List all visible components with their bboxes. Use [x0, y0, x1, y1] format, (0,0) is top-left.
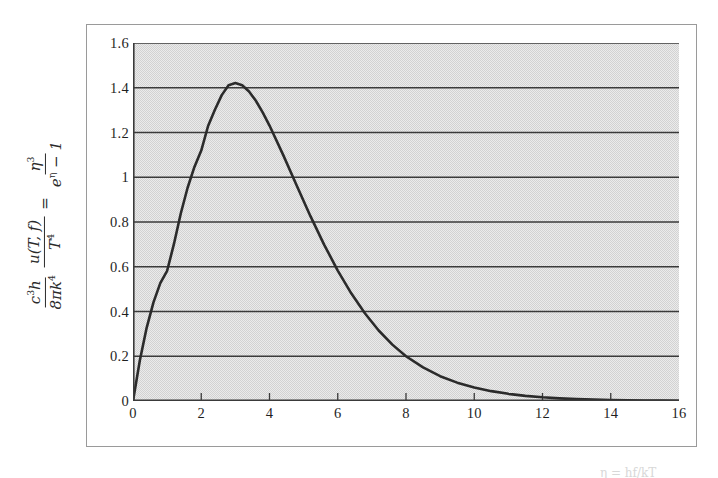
formula-rhs-numerator: η3 — [26, 153, 46, 174]
chart-frame: 00.20.40.60.811.21.41.6 0246810121416 — [86, 24, 697, 447]
formula-lhs-denominator: 8πk4 — [46, 272, 65, 312]
formula-rhs-den-exponent: η — [46, 172, 57, 178]
x-tick-label: 4 — [266, 405, 274, 422]
x-tick-label: 2 — [197, 405, 205, 422]
x-tick-label: 10 — [467, 405, 482, 422]
blackbody-spectrum-figure: c3h 8πk4 u(T, f) T4 = η3 eη − 1 00.20.40… — [0, 0, 718, 478]
bottom-caption: η = hf/kT — [600, 466, 710, 478]
formula-equals-sign: = — [36, 195, 54, 212]
formula-lhs-den-exponent: 4 — [46, 275, 57, 281]
x-tick-label: 12 — [535, 405, 550, 422]
x-tick-label: 6 — [334, 405, 342, 422]
formula-rhs-num-exponent: 3 — [25, 156, 36, 162]
formula-mid-denominator: T4 — [45, 231, 64, 253]
y-tick-label: 0 — [89, 393, 129, 410]
planck-distribution-curve — [133, 83, 679, 401]
formula-mid-numerator: u(T, f) — [27, 217, 45, 267]
plot-area — [133, 43, 679, 401]
y-tick-label: 0.4 — [89, 303, 129, 320]
x-tick-label: 8 — [402, 405, 410, 422]
y-tick-label: 0.2 — [89, 348, 129, 365]
formula-mid-fraction: u(T, f) T4 — [27, 217, 64, 267]
x-axis-tick-labels: 0246810121416 — [133, 405, 679, 429]
x-tick-label: 16 — [671, 405, 686, 422]
formula-rhs-fraction: η3 eη − 1 — [26, 138, 65, 190]
y-axis-formula-label: c3h 8πk4 u(T, f) T4 = η3 eη − 1 — [14, 30, 76, 420]
x-tick-label: 14 — [603, 405, 618, 422]
y-tick-label: 1 — [89, 169, 129, 186]
y-tick-label: 0.8 — [89, 214, 129, 231]
y-tick-label: 0.6 — [89, 258, 129, 275]
formula-lhs-fraction: c3h 8πk4 — [26, 272, 65, 312]
formula-lhs-num-exponent: 3 — [25, 290, 36, 296]
y-tick-label: 1.6 — [89, 35, 129, 52]
y-axis-formula: c3h 8πk4 u(T, f) T4 = η3 eη − 1 — [26, 138, 65, 312]
formula-rhs-denominator: eη − 1 — [46, 138, 65, 190]
plot-canvas — [133, 43, 679, 401]
gridlines — [133, 43, 679, 356]
x-tick-label: 0 — [129, 405, 137, 422]
y-tick-label: 1.2 — [89, 124, 129, 141]
y-axis-tick-labels: 00.20.40.60.811.21.41.6 — [87, 43, 129, 401]
y-tick-label: 1.4 — [89, 79, 129, 96]
formula-lhs-numerator: c3h — [26, 277, 46, 307]
formula-mid-den-exponent: 4 — [45, 234, 56, 240]
